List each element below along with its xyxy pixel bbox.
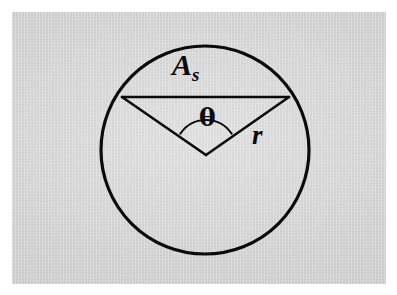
figure-root: As θ r (0, 0, 397, 295)
radius-label: r (252, 122, 263, 149)
radius-right-line (206, 97, 289, 155)
radius-left-line (122, 97, 206, 155)
angle-theta-label: θ (199, 105, 216, 130)
circle-segment-svg (0, 0, 397, 295)
segment-area-label: As (172, 50, 199, 84)
segment-area-subscript: s (192, 64, 199, 85)
segment-area-symbol: A (172, 48, 192, 81)
circle-outline (101, 46, 309, 254)
